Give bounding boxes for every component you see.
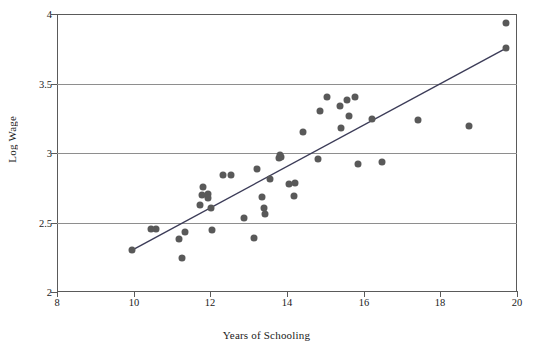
data-point	[292, 179, 299, 186]
y-tick-label-3: 3	[47, 148, 52, 159]
plot-area: 22.533.54 8101214161820	[57, 14, 517, 292]
data-point	[240, 214, 247, 221]
data-point	[315, 156, 322, 163]
y-tick-label-2.5: 2.5	[39, 218, 52, 229]
data-point	[354, 161, 361, 168]
data-point	[152, 225, 159, 232]
data-point	[379, 159, 386, 166]
x-tick-label-16: 16	[359, 297, 370, 308]
data-point	[228, 172, 235, 179]
data-point	[175, 235, 182, 242]
regression-line	[57, 14, 517, 292]
y-tick-label-4: 4	[47, 9, 52, 20]
data-point	[336, 103, 343, 110]
data-point	[254, 166, 261, 173]
data-point	[219, 171, 226, 178]
data-point	[261, 210, 268, 217]
data-point	[415, 116, 422, 123]
x-axis-title: Years of Schooling	[0, 329, 533, 341]
data-point	[324, 93, 331, 100]
data-point	[300, 128, 307, 135]
data-point	[208, 204, 215, 211]
data-point	[205, 195, 212, 202]
data-point	[266, 176, 273, 183]
data-point	[181, 228, 188, 235]
x-tick-label-12: 12	[205, 297, 216, 308]
data-point	[503, 45, 510, 52]
data-point	[259, 193, 266, 200]
data-point	[344, 96, 351, 103]
data-point	[466, 122, 473, 129]
x-tick-label-20: 20	[512, 297, 523, 308]
data-point	[338, 125, 345, 132]
y-tick-label-3.5: 3.5	[39, 79, 52, 90]
data-point	[316, 108, 323, 115]
data-point	[179, 254, 186, 261]
data-point	[251, 234, 258, 241]
data-point	[200, 184, 207, 191]
data-point	[197, 202, 204, 209]
x-tick-label-10: 10	[129, 297, 140, 308]
data-point	[502, 20, 509, 27]
data-point	[209, 227, 216, 234]
cropped-title-remnant	[0, 0, 533, 5]
data-point	[369, 115, 376, 122]
data-point	[278, 153, 285, 160]
x-tick-label-8: 8	[54, 297, 59, 308]
x-tick-label-18: 18	[435, 297, 446, 308]
scatter-plot-figure: 22.533.54 8101214161820 Years of Schooli…	[0, 0, 533, 348]
data-point	[346, 113, 353, 120]
data-point	[352, 94, 359, 101]
data-point	[128, 247, 135, 254]
data-point	[290, 193, 297, 200]
y-axis-title: Log Wage	[6, 116, 18, 163]
x-tick-label-14: 14	[282, 297, 293, 308]
y-tick-label-2: 2	[47, 287, 52, 298]
